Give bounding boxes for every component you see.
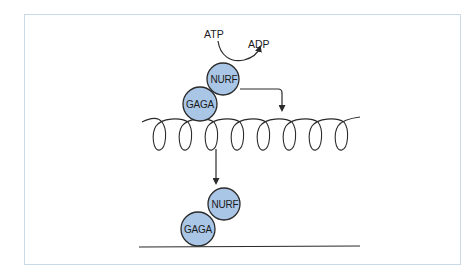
nurf-label-bottom: NURF <box>212 199 239 210</box>
arrow-to-helix <box>240 89 282 110</box>
bottom-complex: NURF GAGA <box>181 188 240 246</box>
nurf-label-top: NURF <box>211 74 238 85</box>
chromatin-helix <box>142 117 360 150</box>
gaga-label-top: GAGA <box>186 99 215 110</box>
top-complex: NURF GAGA <box>183 63 239 121</box>
diagram-canvas: ATP ADP NURF GAGA NURF GAGA <box>0 0 468 280</box>
gaga-label-bottom: GAGA <box>184 224 213 235</box>
adp-label: ADP <box>248 38 270 50</box>
atp-label: ATP <box>204 28 224 40</box>
linear-dna <box>139 246 360 247</box>
